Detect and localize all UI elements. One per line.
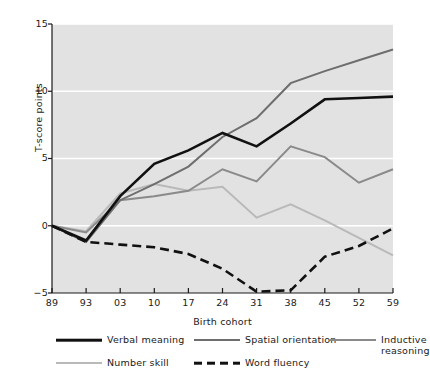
x-tick-label: 38: [278, 297, 304, 308]
legend-label: Number skill: [107, 357, 169, 368]
legend-label: Spatial orientation: [245, 334, 337, 345]
x-tick-label: 45: [312, 297, 338, 308]
legend-swatch-line: [56, 335, 102, 345]
y-tick-label: 5: [42, 153, 48, 163]
legend-swatch-line: [194, 335, 240, 345]
legend-item-inductive-reasoning: Inductive reasoning: [330, 334, 430, 356]
legend-label: Word fluency: [245, 357, 310, 368]
y-axis-tick-labels: 15 10 5 0 −5: [26, 0, 48, 300]
legend-swatch-line: [330, 335, 376, 345]
x-tick-label: 31: [244, 297, 270, 308]
legend-item-word-fluency: Word fluency: [194, 357, 310, 368]
legend-label: Verbal meaning: [107, 334, 184, 345]
x-tick-label: 59: [380, 297, 406, 308]
x-tick-label: 03: [107, 297, 133, 308]
x-tick-label: 17: [175, 297, 201, 308]
legend-item-number-skill: Number skill: [56, 357, 169, 368]
y-tick-label: 15: [36, 19, 49, 29]
legend-item-verbal-meaning: Verbal meaning: [56, 334, 184, 345]
legend-swatch-line: [194, 358, 240, 368]
x-tick-label: 24: [210, 297, 236, 308]
x-tick-label: 89: [39, 297, 65, 308]
legend-swatch-line: [56, 358, 102, 368]
x-axis-title: Birth cohort: [52, 316, 393, 327]
y-tick-label: 0: [42, 221, 48, 231]
x-tick-label: 52: [346, 297, 372, 308]
legend-label: Inductive reasoning: [381, 334, 430, 356]
x-tick-label: 93: [73, 297, 99, 308]
legend-item-spatial-orientation: Spatial orientation: [194, 334, 337, 345]
x-tick-label: 10: [141, 297, 167, 308]
y-tick-label: 10: [36, 86, 49, 96]
chart-legend: Verbal meaning Spatial orientation Induc…: [52, 332, 412, 380]
